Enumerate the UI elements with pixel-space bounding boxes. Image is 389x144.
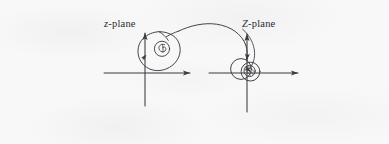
mapping-arc — [178, 24, 245, 45]
conformal-mapping-drawing — [0, 0, 389, 144]
left-plane-axes — [104, 33, 190, 106]
label-Z-suffix: -plane — [248, 18, 275, 29]
left-plane-inner-circle — [154, 41, 169, 56]
label-Z-plane: Z-plane — [242, 18, 275, 29]
left-plane-contour — [138, 32, 180, 71]
figure-container: z-plane Z-plane — [0, 0, 389, 144]
left-contour-to-arc-connector — [167, 31, 179, 36]
left-plane-inner-spiral-tail — [162, 44, 163, 52]
label-z-plane: z-plane — [104, 18, 136, 29]
label-z-suffix: -plane — [108, 18, 135, 29]
